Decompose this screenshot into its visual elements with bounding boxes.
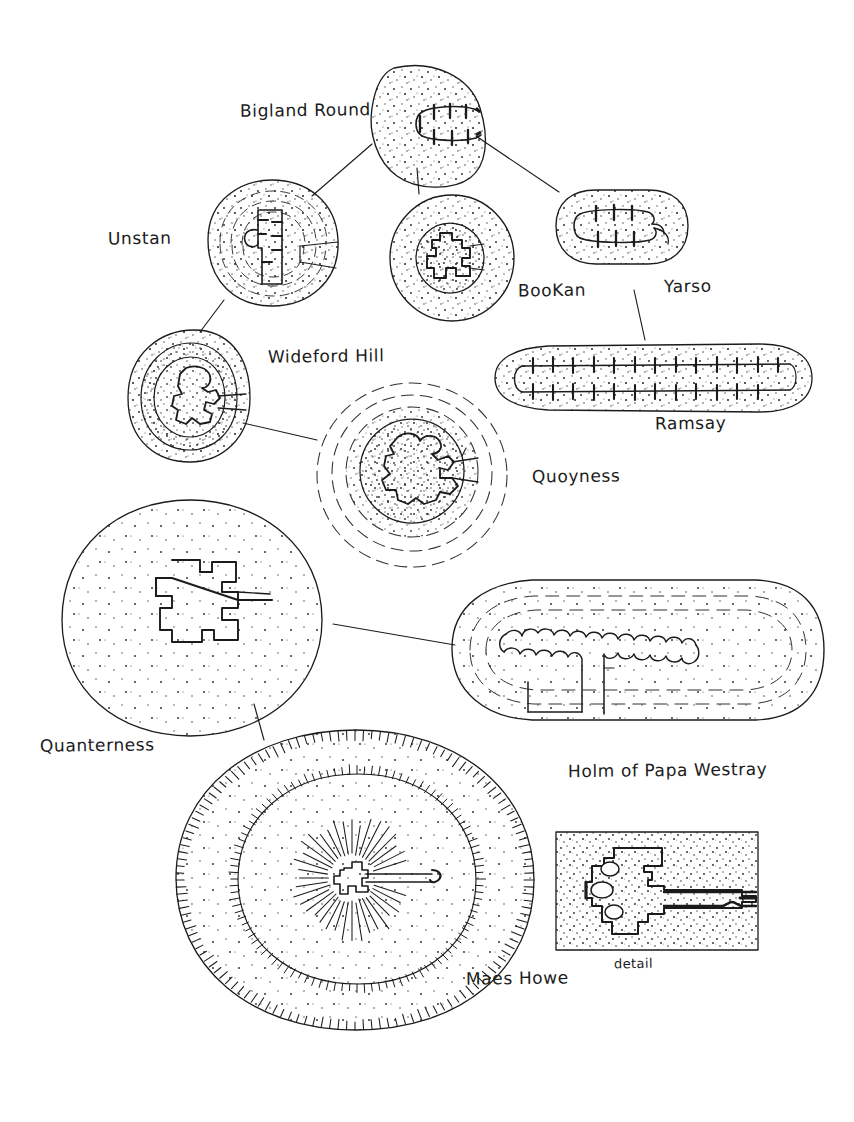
cairn-quanterness xyxy=(62,500,322,736)
cairn-bookan xyxy=(390,195,514,321)
label-wideford-hill: Wideford Hill xyxy=(268,345,385,366)
label-unstan: Unstan xyxy=(108,228,172,249)
label-bigland-round: Bigland Round xyxy=(240,99,371,121)
link-quanterness-holm xyxy=(333,624,455,645)
link-unstan-wideford xyxy=(200,300,224,332)
cairn-unstan xyxy=(208,180,338,306)
cairn-holm-of-papa-westray xyxy=(452,580,824,720)
label-ramsay: Ramsay xyxy=(655,413,727,434)
link-bigland-unstan xyxy=(312,144,372,196)
label-bookan: BooKan xyxy=(518,280,586,301)
label-quoyness: Quoyness xyxy=(532,465,621,486)
cairn-plans-drawing xyxy=(0,0,854,1122)
label-holm-of-papa-westray: Holm of Papa Westray xyxy=(568,759,768,781)
label-maes-howe: Maes Howe xyxy=(466,967,569,988)
link-yarso-ramsay xyxy=(634,290,645,340)
cairn-ramsay xyxy=(495,344,812,412)
label-detail: detail xyxy=(614,956,653,971)
cairn-quoyness xyxy=(317,383,507,567)
cairn-bigland-round xyxy=(371,66,485,188)
cairn-yarso xyxy=(556,190,688,264)
cairn-wideford-hill xyxy=(128,330,250,462)
maes-howe-detail-inset xyxy=(556,832,758,950)
drawing-sheet: Bigland Round Unstan BooKan Yarso Widefo… xyxy=(0,0,854,1122)
label-quanterness: Quanterness xyxy=(40,734,155,755)
link-bigland-yarso xyxy=(476,136,559,192)
link-wideford-quoyness xyxy=(243,423,317,440)
label-yarso: Yarso xyxy=(664,276,712,297)
